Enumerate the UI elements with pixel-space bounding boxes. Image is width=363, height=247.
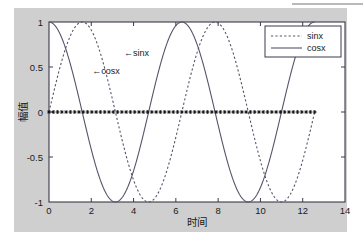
- zero-marker: [116, 110, 120, 114]
- zero-marker: [150, 110, 154, 114]
- y-tick-label: 1: [38, 17, 43, 28]
- annotation-label: ←cosx: [92, 66, 120, 76]
- zero-marker: [184, 110, 188, 114]
- zero-marker: [111, 110, 115, 114]
- zero-marker: [60, 110, 64, 114]
- zero-marker: [137, 110, 141, 114]
- zero-marker: [270, 110, 274, 114]
- zero-marker: [283, 110, 287, 114]
- x-axis-title: 时间: [187, 216, 207, 228]
- zero-marker: [163, 110, 167, 114]
- zero-marker: [171, 110, 175, 114]
- zero-marker: [146, 110, 150, 114]
- zero-marker: [133, 110, 137, 114]
- zero-marker: [64, 110, 68, 114]
- zero-marker: [257, 110, 261, 114]
- zero-marker: [90, 110, 94, 114]
- zero-marker: [223, 110, 227, 114]
- zero-marker: [167, 110, 171, 114]
- y-tick-label: 0.5: [30, 62, 43, 73]
- zero-marker: [249, 110, 253, 114]
- zero-marker: [206, 110, 210, 114]
- x-tick-label: 14: [340, 205, 351, 216]
- zero-marker: [69, 110, 73, 114]
- zero-marker: [261, 110, 265, 114]
- zero-marker: [236, 110, 240, 114]
- zero-marker: [77, 110, 81, 114]
- x-tick-label: 4: [131, 205, 136, 216]
- zero-marker: [291, 110, 295, 114]
- x-axis-tick-labels: 02468101214: [46, 205, 350, 216]
- zero-marker: [308, 110, 312, 114]
- zero-marker: [120, 110, 124, 114]
- zero-marker: [124, 110, 128, 114]
- y-axis-tick-labels: -1-0.500.51: [27, 17, 43, 208]
- zero-marker: [278, 110, 282, 114]
- zero-marker: [201, 110, 205, 114]
- y-tick-label: -1: [35, 197, 43, 208]
- chart-screenshot: 02468101214 -1-0.500.51 ←sinx←cosx 时间 幅值…: [0, 0, 363, 247]
- zero-marker: [214, 110, 218, 114]
- zero-marker: [287, 110, 291, 114]
- zero-marker: [210, 110, 214, 114]
- zero-marker: [189, 110, 193, 114]
- zero-marker: [159, 110, 163, 114]
- x-tick-label: 6: [173, 205, 178, 216]
- x-tick-label: 12: [297, 205, 308, 216]
- zero-marker: [240, 110, 244, 114]
- zero-marker: [154, 110, 158, 114]
- zero-marker: [193, 110, 197, 114]
- zero-marker: [300, 110, 304, 114]
- zero-marker: [266, 110, 270, 114]
- legend[interactable]: sinx cosx: [265, 26, 341, 57]
- zero-marker: [304, 110, 308, 114]
- zero-marker: [197, 110, 201, 114]
- annotation-label: ←sinx: [124, 48, 150, 58]
- zero-marker: [73, 110, 77, 114]
- zero-marker: [313, 110, 317, 114]
- y-axis-title: 幅值: [17, 101, 29, 122]
- y-tick-label: -0.5: [27, 152, 43, 163]
- zero-marker: [129, 110, 133, 114]
- y-tick-label: 0: [38, 107, 43, 118]
- zero-marker: [253, 110, 257, 114]
- zero-marker: [244, 110, 248, 114]
- legend-label-sinx: sinx: [307, 31, 324, 41]
- legend-border: [265, 26, 341, 57]
- zero-marker: [56, 110, 60, 114]
- zero-marker: [180, 110, 184, 114]
- zero-marker-series: [47, 110, 316, 114]
- zero-marker: [107, 110, 111, 114]
- zero-marker: [231, 110, 235, 114]
- legend-label-cosx: cosx: [307, 43, 326, 53]
- x-tick-label: 8: [215, 205, 220, 216]
- x-tick-label: 0: [46, 205, 51, 216]
- zero-marker: [296, 110, 300, 114]
- zero-marker: [274, 110, 278, 114]
- zero-marker: [94, 110, 98, 114]
- zero-marker: [176, 110, 180, 114]
- zero-marker: [227, 110, 231, 114]
- zero-marker: [99, 110, 103, 114]
- zero-marker: [81, 110, 85, 114]
- zero-marker: [51, 110, 55, 114]
- zero-marker: [47, 110, 51, 114]
- zero-marker: [219, 110, 223, 114]
- x-tick-label: 10: [255, 205, 266, 216]
- plot-axes: 02468101214 -1-0.500.51 ←sinx←cosx 时间 幅值…: [0, 0, 363, 247]
- zero-marker: [103, 110, 107, 114]
- zero-marker: [86, 110, 90, 114]
- x-tick-label: 2: [89, 205, 94, 216]
- zero-marker: [141, 110, 145, 114]
